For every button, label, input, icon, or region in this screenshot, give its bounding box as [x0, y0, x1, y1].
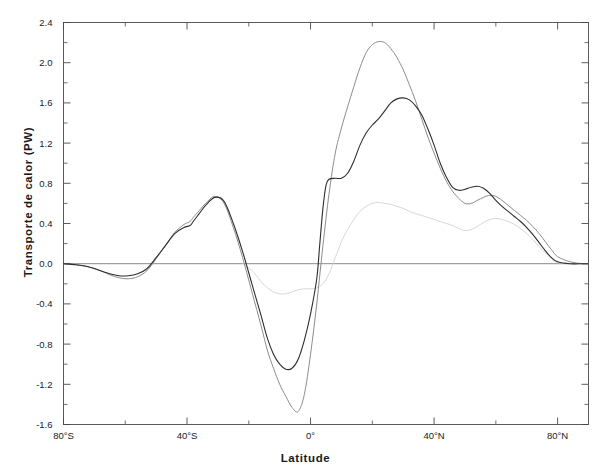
x-tick-label: 40°N [423, 430, 444, 441]
y-axis-title: Transporte de calor (PW) [22, 122, 34, 282]
chart-figure: 2.42.01.61.20.80.40.0-0.4-0.8-1.2-1.680°… [0, 0, 611, 475]
y-tick-label: -1.6 [36, 419, 52, 430]
series-line-component-faint [243, 202, 589, 294]
plot-frame [64, 23, 589, 425]
series-line-total-dark [64, 98, 589, 370]
y-tick-label: -0.4 [36, 298, 52, 309]
y-tick-label: 0.8 [39, 178, 52, 189]
y-tick-label: -0.8 [36, 339, 52, 350]
plot-canvas: 2.42.01.61.20.80.40.0-0.4-0.8-1.2-1.680°… [0, 0, 611, 475]
y-tick-label: 2.4 [39, 17, 52, 28]
y-tick-label: 0.0 [39, 258, 52, 269]
x-tick-label: 40°S [177, 430, 198, 441]
x-axis-title: Latitude [0, 452, 611, 464]
series-line-total-light [64, 41, 589, 412]
y-tick-label: 0.4 [39, 218, 52, 229]
y-tick-label: 2.0 [39, 57, 52, 68]
x-tick-label: 0° [306, 430, 315, 441]
x-tick-label: 80°N [547, 430, 568, 441]
y-tick-label: 1.6 [39, 97, 52, 108]
x-tick-label: 80°S [53, 430, 74, 441]
y-tick-label: -1.2 [36, 379, 52, 390]
y-tick-label: 1.2 [39, 138, 52, 149]
